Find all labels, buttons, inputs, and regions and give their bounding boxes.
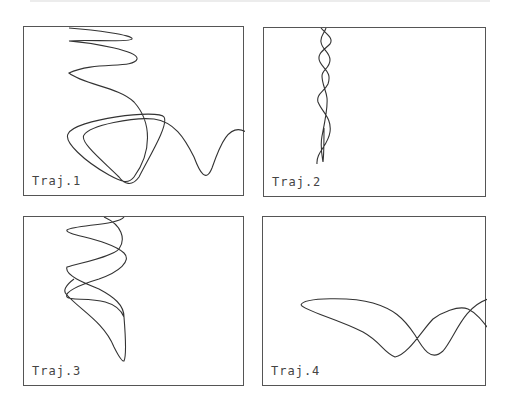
panel-label-3: Traj.3: [32, 365, 81, 377]
trajectory-panel-1: Traj.1: [23, 26, 244, 196]
top-edge-strip: [30, 0, 490, 2]
trajectory-panel-2: Traj.2: [263, 27, 486, 197]
trajectory-panel-4: Traj.4: [262, 216, 486, 386]
trajectory-plot-3: [24, 217, 245, 387]
trajectory-plot-1: [24, 27, 245, 197]
panel-label-1: Traj.1: [32, 175, 81, 187]
trajectory-path-4: [301, 289, 487, 357]
trajectory-path-3: [65, 217, 127, 361]
trajectory-plot-2: [264, 28, 487, 198]
trajectory-path-1: [67, 28, 245, 183]
panel-label-2: Traj.2: [272, 176, 321, 188]
panel-label-4: Traj.4: [271, 365, 320, 377]
trajectory-path-2: [317, 28, 331, 164]
trajectory-plot-4: [263, 217, 487, 387]
trajectory-panel-3: Traj.3: [23, 216, 244, 386]
